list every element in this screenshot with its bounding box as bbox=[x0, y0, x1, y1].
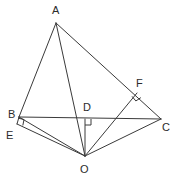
vertex-label-B: B bbox=[8, 109, 15, 120]
segment-A-C bbox=[56, 23, 161, 119]
geometry-canvas bbox=[0, 0, 175, 183]
segment-A-O bbox=[56, 23, 85, 156]
segment-A-B bbox=[19, 23, 56, 117]
segment-O-C bbox=[85, 119, 161, 156]
right-angle-at-D bbox=[85, 119, 91, 125]
segment-E-O bbox=[17, 124, 85, 156]
vertex-label-O: O bbox=[80, 164, 89, 175]
vertex-label-D: D bbox=[83, 102, 91, 113]
vertex-label-F: F bbox=[136, 78, 143, 89]
segment-B-C bbox=[19, 117, 161, 119]
vertex-label-E: E bbox=[6, 130, 13, 141]
vertex-label-A: A bbox=[52, 5, 59, 16]
segment-B-O bbox=[19, 117, 85, 156]
geometry-figure: ABCDEFO bbox=[0, 0, 175, 183]
segment-layer bbox=[17, 23, 161, 156]
vertex-label-C: C bbox=[162, 122, 170, 133]
right-angle-at-E bbox=[18, 118, 24, 125]
segment-O-F bbox=[85, 93, 137, 156]
